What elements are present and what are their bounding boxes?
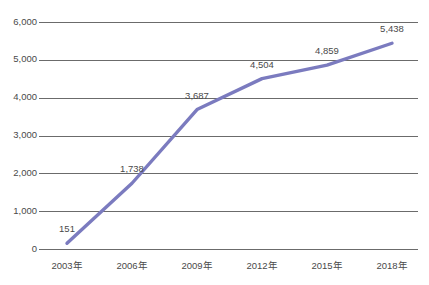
line-chart: 01,0002,0003,0004,0005,0006,000 2003年200… — [0, 0, 429, 285]
x-axis-tick-labels: 2003年2006年2009年2012年2015年2018年 — [51, 260, 407, 271]
y-axis-label-4000: 4,000 — [13, 91, 37, 102]
y-axis-label-3000: 3,000 — [13, 129, 37, 140]
gridlines — [45, 23, 418, 250]
y-axis-tick-labels: 01,0002,0003,0004,0005,0006,000 — [13, 16, 37, 254]
data-label-2018: 5,438 — [380, 23, 404, 34]
x-axis-label-5: 2018年 — [376, 260, 407, 271]
data-label-2009: 3,687 — [185, 90, 209, 101]
y-axis-label-2000: 2,000 — [13, 167, 37, 178]
y-axis-label-1000: 1,000 — [13, 205, 37, 216]
x-axis-label-1: 2006年 — [116, 260, 147, 271]
x-axis-label-3: 2012年 — [246, 260, 277, 271]
x-axis-label-0: 2003年 — [51, 260, 82, 271]
y-axis-label-6000: 6,000 — [13, 16, 37, 27]
x-axis-label-4: 2015年 — [311, 260, 342, 271]
x-axis-label-2: 2009年 — [181, 260, 212, 271]
y-axis-ticks — [39, 23, 45, 250]
data-label-2006: 1,738 — [120, 163, 144, 174]
y-axis-label-0: 0 — [32, 243, 37, 254]
series-line-path — [67, 43, 392, 243]
data-label-2003: 151 — [59, 223, 75, 234]
y-axis-label-5000: 5,000 — [13, 53, 37, 64]
data-label-2015: 4,859 — [315, 45, 339, 56]
data-label-2012: 4,504 — [250, 59, 274, 70]
chart-canvas: 01,0002,0003,0004,0005,0006,000 2003年200… — [0, 0, 429, 285]
data-series-line — [67, 43, 392, 243]
